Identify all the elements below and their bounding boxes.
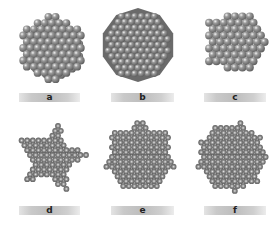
label-b: b (111, 93, 174, 102)
cluster-c-graphic (187, 0, 280, 90)
panel-d (0, 113, 93, 203)
label-f: f (204, 206, 266, 215)
label-e: e (111, 206, 174, 215)
cluster-b-graphic (93, 0, 187, 90)
panel-f (187, 113, 280, 203)
panel-c (187, 0, 280, 90)
disc-f-graphic (187, 113, 280, 203)
star-d-graphic (0, 113, 93, 203)
panel-a (0, 0, 93, 90)
disc-e-graphic (93, 113, 187, 203)
cluster-a-graphic (0, 0, 93, 90)
label-a: a (19, 93, 80, 102)
label-c: c (204, 93, 266, 102)
panel-e (93, 113, 187, 203)
panel-b (93, 0, 187, 90)
label-d: d (19, 206, 80, 215)
